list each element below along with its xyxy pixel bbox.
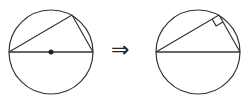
implies-arrow: ⇒: [111, 38, 129, 62]
right-triangle-sides: [156, 15, 240, 52]
right-figure: [156, 10, 240, 94]
center-dot: [49, 50, 54, 55]
left-triangle-sides: [9, 15, 93, 52]
left-figure: [9, 10, 93, 94]
